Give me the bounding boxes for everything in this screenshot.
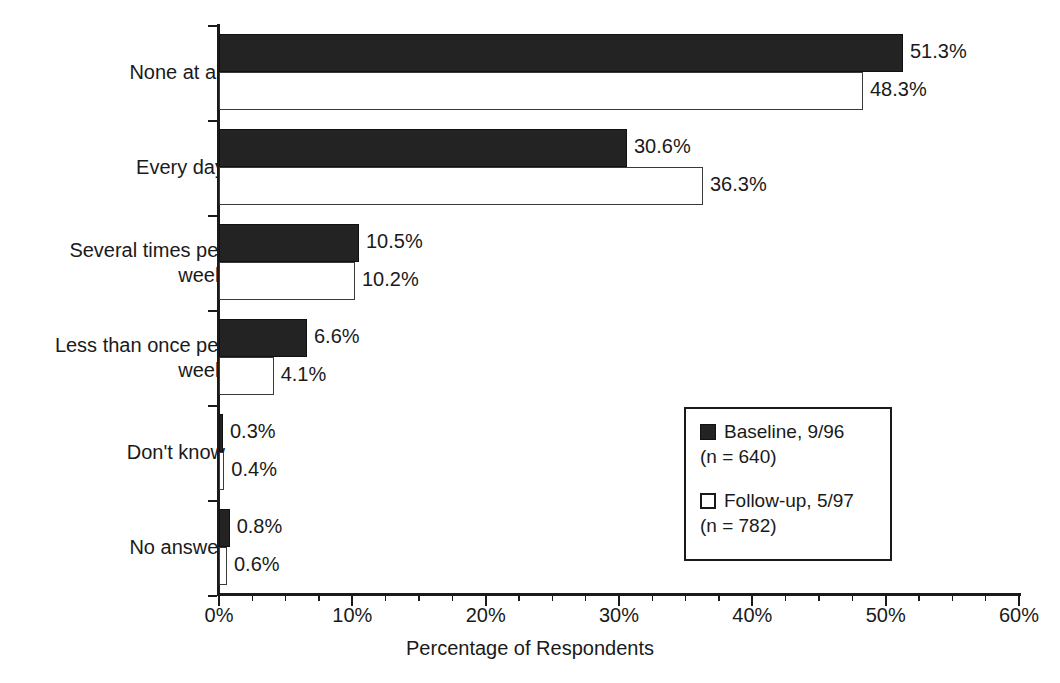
bar-followup-2 (219, 262, 355, 300)
x-axis-tick-minor (452, 595, 454, 601)
bar-baseline-1 (219, 129, 627, 167)
x-axis-tick-minor (818, 595, 820, 601)
bar-value-label-followup-1: 36.3% (710, 173, 767, 196)
y-axis-tick (208, 310, 217, 312)
legend-label-baseline: Baseline, 9/96 (724, 419, 844, 444)
x-axis-tick-label: 20% (466, 604, 506, 627)
bar-baseline-0 (219, 34, 903, 72)
bar-baseline-2 (219, 224, 359, 262)
x-axis-tick-minor (552, 595, 554, 601)
legend-sublabel-followup: (n = 782) (700, 513, 854, 538)
legend-swatch-open-square-icon (700, 493, 716, 509)
x-axis-tick-minor (718, 595, 720, 601)
x-axis-tick-minor (952, 595, 954, 601)
x-axis-tick-minor (285, 595, 287, 601)
x-axis-tick-minor (252, 595, 254, 601)
bar-baseline-4 (219, 414, 223, 452)
legend-row-followup: Follow-up, 5/97 (700, 488, 854, 513)
x-axis-tick-minor (585, 595, 587, 601)
legend-entry-followup: Follow-up, 5/97 (n = 782) (700, 488, 854, 538)
category-label-3: Less than once per week (0, 333, 225, 383)
bar-followup-1 (219, 167, 703, 205)
x-axis-tick-label: 40% (732, 604, 772, 627)
bar-followup-5 (219, 547, 227, 585)
x-axis-tick-minor (418, 595, 420, 601)
x-axis-tick-label: 50% (866, 604, 906, 627)
bar-value-label-baseline-3: 6.6% (314, 325, 360, 348)
category-label-1: Every day (0, 155, 225, 180)
category-label-4: Don't know (0, 440, 225, 465)
category-label-2: Several times per week (0, 238, 225, 288)
y-axis-tick (208, 405, 217, 407)
legend-row-baseline: Baseline, 9/96 (700, 419, 844, 444)
legend-entry-baseline: Baseline, 9/96 (n = 640) (700, 419, 844, 469)
y-axis-tick (208, 120, 217, 122)
bar-baseline-5 (219, 509, 230, 547)
bar-followup-0 (219, 72, 863, 110)
x-axis-tick-label: 10% (332, 604, 372, 627)
bar-value-label-followup-0: 48.3% (870, 78, 927, 101)
x-axis-tick-label: 30% (599, 604, 639, 627)
x-axis-tick-label: 0% (205, 604, 234, 627)
x-axis-title: Percentage of Respondents (0, 637, 1060, 660)
x-axis-tick-minor (385, 595, 387, 601)
legend-sublabel-baseline: (n = 640) (700, 444, 844, 469)
x-axis-tick-minor (652, 595, 654, 601)
x-axis-tick-minor (685, 595, 687, 601)
bar-value-label-followup-3: 4.1% (281, 363, 327, 386)
x-axis-tick-label: 60% (999, 604, 1039, 627)
y-axis-tick (208, 500, 217, 502)
bar-chart: None at allEvery daySeveral times per we… (0, 0, 1060, 683)
legend-swatch-filled-square-icon (700, 424, 716, 440)
x-axis-tick-minor (318, 595, 320, 601)
bar-baseline-3 (219, 319, 307, 357)
bar-value-label-baseline-4: 0.3% (230, 420, 276, 443)
bar-value-label-followup-4: 0.4% (231, 458, 277, 481)
category-label-0: None at all (0, 60, 225, 85)
x-axis-tick-minor (985, 595, 987, 601)
bar-value-label-followup-5: 0.6% (234, 553, 280, 576)
y-axis-tick (208, 595, 217, 597)
x-axis-tick-minor (785, 595, 787, 601)
x-axis-tick-minor (918, 595, 920, 601)
category-label-5: No answer (0, 535, 225, 560)
x-axis-tick-minor (518, 595, 520, 601)
bar-followup-4 (219, 452, 224, 490)
y-axis-tick (208, 215, 217, 217)
bar-value-label-baseline-0: 51.3% (910, 40, 967, 63)
legend: Baseline, 9/96 (n = 640) Follow-up, 5/97… (684, 407, 892, 561)
bar-followup-3 (219, 357, 274, 395)
bar-value-label-followup-2: 10.2% (362, 268, 419, 291)
legend-label-followup: Follow-up, 5/97 (724, 488, 854, 513)
bar-value-label-baseline-2: 10.5% (366, 230, 423, 253)
x-axis-tick-minor (852, 595, 854, 601)
y-axis-tick (208, 25, 217, 27)
bar-value-label-baseline-1: 30.6% (634, 135, 691, 158)
bar-value-label-baseline-5: 0.8% (237, 515, 283, 538)
